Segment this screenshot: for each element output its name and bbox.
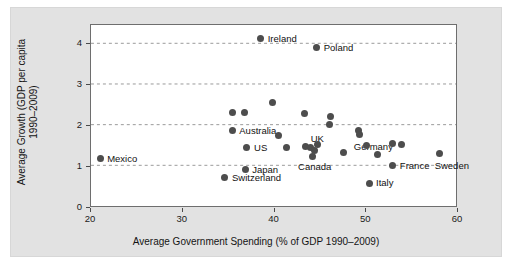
y-tick-mark xyxy=(86,166,90,167)
x-tick-mark xyxy=(90,208,91,212)
y-axis-title-line-2: 1990–2009) xyxy=(28,12,40,212)
x-tick-mark xyxy=(457,208,458,212)
x-tick-label: 40 xyxy=(259,213,289,224)
data-point-australia[interactable] xyxy=(229,127,236,134)
y-tick-mark xyxy=(86,43,90,44)
y-tick-mark xyxy=(86,84,90,85)
data-point-mexico[interactable] xyxy=(97,155,104,162)
data-point[interactable] xyxy=(326,121,333,128)
data-point-japan[interactable] xyxy=(242,166,249,173)
scatter-chart-figure: Average Growth (GDP per capita 1990–2009… xyxy=(0,0,512,267)
y-tick-label: 0 xyxy=(64,201,82,212)
x-tick-label: 50 xyxy=(350,213,380,224)
point-label-france: France xyxy=(400,160,430,171)
point-label-us: US xyxy=(254,142,267,153)
data-point[interactable] xyxy=(301,110,308,117)
data-point-canada[interactable] xyxy=(309,153,316,160)
point-label-sweden: Sweden xyxy=(435,160,469,171)
data-point[interactable] xyxy=(229,109,236,116)
data-point[interactable] xyxy=(269,99,276,106)
y-axis-title: Average Growth (GDP per capita 1990–2009… xyxy=(16,12,40,212)
x-tick-mark xyxy=(365,208,366,212)
data-point-italy[interactable] xyxy=(366,180,373,187)
point-label-ireland: Ireland xyxy=(268,33,297,44)
data-point[interactable] xyxy=(275,132,282,139)
point-label-italy: Italy xyxy=(376,177,393,188)
x-tick-label: 20 xyxy=(75,213,105,224)
data-point[interactable] xyxy=(363,142,370,149)
point-label-australia: Australia xyxy=(239,125,276,136)
point-label-canada: Canada xyxy=(298,161,331,172)
x-tick-mark xyxy=(182,208,183,212)
y-axis-title-line-1: Average Growth (GDP per capita xyxy=(16,12,28,212)
plot-area: MexicoSwitzerlandAustraliaJapanUSIreland… xyxy=(90,24,457,207)
y-tick-label: 2 xyxy=(64,119,82,130)
data-point-us[interactable] xyxy=(243,144,250,151)
x-tick-mark xyxy=(274,208,275,212)
data-point[interactable] xyxy=(241,109,248,116)
y-tick-mark xyxy=(86,125,90,126)
y-tick-label: 3 xyxy=(64,78,82,89)
x-tick-label: 60 xyxy=(442,213,472,224)
y-tick-label: 4 xyxy=(64,37,82,48)
data-point[interactable] xyxy=(389,140,396,147)
data-point[interactable] xyxy=(398,141,405,148)
point-label-germany: Germany xyxy=(354,141,393,152)
y-tick-label: 1 xyxy=(64,160,82,171)
x-axis-title: Average Government Spending (% of GDP 19… xyxy=(0,236,512,247)
x-tick-label: 30 xyxy=(167,213,197,224)
point-label-mexico: Mexico xyxy=(107,153,137,164)
point-label-poland: Poland xyxy=(324,42,354,53)
point-label-japan: Japan xyxy=(252,164,278,175)
data-point[interactable] xyxy=(283,144,290,151)
